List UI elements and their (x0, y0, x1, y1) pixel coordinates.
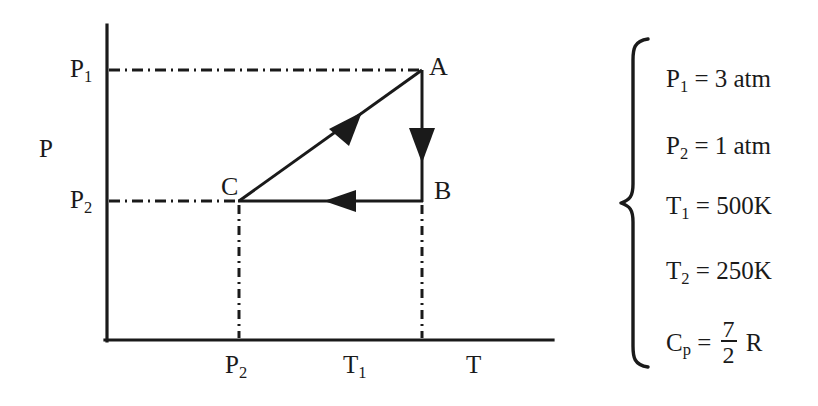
vertex-label-a: A (429, 54, 448, 80)
process-segment-c-to-a (239, 70, 422, 201)
thermodynamic-cycle-figure: P P1 P2 P2 T1 T A B C P1 = 3 atm P2 = 1 … (0, 0, 818, 406)
vertex-label-b: B (434, 178, 451, 204)
y-tick-label-p2: P2 (70, 187, 92, 216)
arrowhead-c-to-a-diagonal (329, 112, 362, 146)
curly-brace (621, 39, 648, 367)
arrowhead-b-to-c-left (324, 190, 356, 212)
fraction-seven-halves: 7 2 (721, 318, 737, 368)
x-tick-label-t1: T1 (343, 352, 367, 381)
y-tick-label-p1: P1 (70, 56, 92, 85)
vertex-label-c: C (221, 174, 238, 200)
given-value-t2: T2 = 250K (666, 258, 772, 287)
given-value-t1: T1 = 500K (666, 193, 772, 222)
y-axis-label: P (39, 136, 53, 161)
x-tick-label-p2: P2 (225, 352, 247, 381)
x-tick-label-t: T (466, 352, 481, 377)
given-value-p1: P1 = 3 atm (666, 66, 771, 95)
given-value-cp: Cp = 7 2 R (666, 320, 762, 370)
arrowhead-a-to-b-down (409, 128, 435, 163)
given-value-p2: P2 = 1 atm (666, 133, 771, 162)
